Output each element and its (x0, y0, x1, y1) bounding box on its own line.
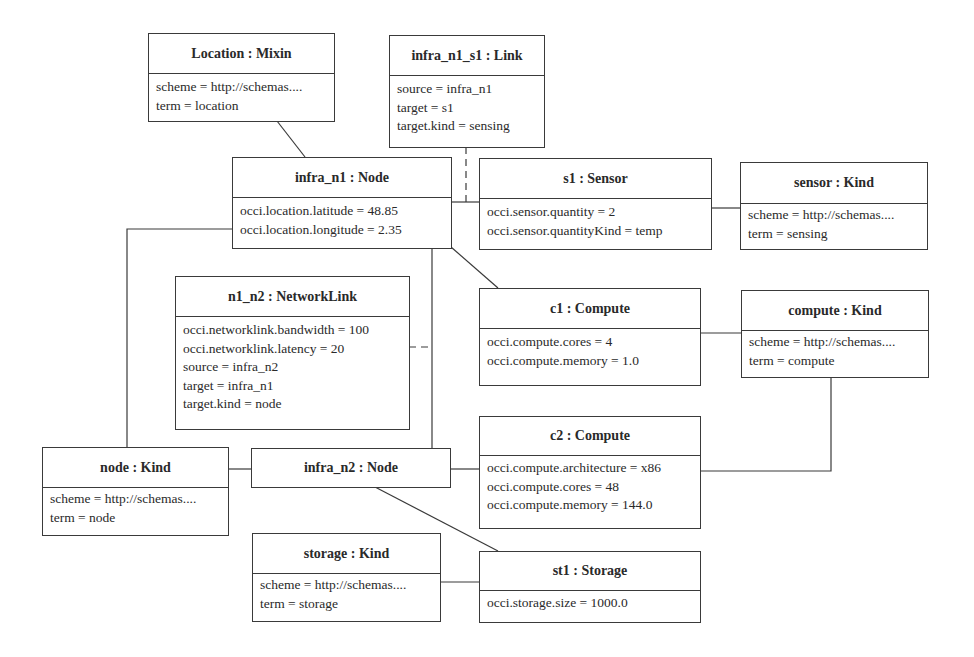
object-title: n1_n2 : NetworkLink (176, 277, 409, 317)
object-infra-n1-node[interactable]: infra_n1 : Node occi.location.latitude =… (232, 157, 452, 249)
object-title: infra_n1_s1 : Link (390, 36, 544, 76)
object-node-kind[interactable]: node : Kind scheme = http://schemas.... … (42, 447, 229, 536)
object-attributes: occi.location.latitude = 48.85 occi.loca… (233, 198, 451, 239)
object-title: infra_n1 : Node (233, 158, 451, 198)
attribute: source = infra_n1 (397, 80, 544, 99)
attribute: scheme = http://schemas.... (156, 78, 334, 97)
attribute: occi.networklink.latency = 20 (183, 340, 409, 359)
object-attributes: occi.compute.cores = 4 occi.compute.memo… (480, 329, 700, 370)
attribute: occi.networklink.bandwidth = 100 (183, 321, 409, 340)
attribute: target = infra_n1 (183, 377, 409, 396)
attribute: occi.sensor.quantityKind = temp (487, 222, 711, 241)
attribute: term = compute (749, 352, 928, 371)
object-attributes: scheme = http://schemas.... term = stora… (253, 574, 440, 613)
attribute: occi.compute.memory = 144.0 (487, 496, 700, 515)
attribute: term = storage (260, 595, 440, 614)
attribute: occi.compute.cores = 48 (487, 478, 700, 497)
attribute: occi.location.latitude = 48.85 (240, 202, 451, 221)
attribute: term = node (50, 509, 228, 528)
attribute: scheme = http://schemas.... (748, 206, 927, 225)
attribute: occi.compute.memory = 1.0 (487, 352, 700, 371)
object-title: infra_n2 : Node (252, 449, 450, 487)
link-location-infra-n1 (277, 121, 305, 157)
attribute: occi.compute.architecture = x86 (487, 459, 700, 478)
object-title: Location : Mixin (149, 34, 334, 74)
link-infra-n1-c1 (451, 247, 498, 288)
object-title: c1 : Compute (480, 289, 700, 329)
object-s1-sensor[interactable]: s1 : Sensor occi.sensor.quantity = 2 occ… (479, 158, 712, 250)
object-n1-n2-networklink[interactable]: n1_n2 : NetworkLink occi.networklink.ban… (175, 276, 410, 430)
object-title: st1 : Storage (480, 552, 700, 591)
attribute: target.kind = sensing (397, 117, 544, 136)
attribute: term = sensing (748, 225, 927, 244)
object-c1-compute[interactable]: c1 : Compute occi.compute.cores = 4 occi… (479, 288, 701, 386)
object-attributes: scheme = http://schemas.... term = sensi… (741, 204, 927, 243)
object-title: node : Kind (43, 448, 228, 488)
link-c2-compute-kind (700, 377, 831, 471)
object-st1-storage[interactable]: st1 : Storage occi.storage.size = 1000.0 (479, 551, 701, 623)
object-attributes: occi.compute.architecture = x86 occi.com… (480, 456, 700, 515)
object-compute-kind[interactable]: compute : Kind scheme = http://schemas..… (741, 290, 929, 378)
object-attributes: scheme = http://schemas.... term = compu… (742, 331, 928, 370)
object-title: compute : Kind (742, 291, 928, 331)
object-c2-compute[interactable]: c2 : Compute occi.compute.architecture =… (479, 416, 701, 529)
attribute: term = location (156, 97, 334, 116)
object-attributes: occi.storage.size = 1000.0 (480, 591, 700, 613)
object-infra-n2-node[interactable]: infra_n2 : Node (251, 448, 451, 488)
object-sensor-kind[interactable]: sensor : Kind scheme = http://schemas...… (740, 162, 928, 250)
object-attributes: source = infra_n1 target = s1 target.kin… (390, 76, 544, 136)
object-infra-n1-s1-link[interactable]: infra_n1_s1 : Link source = infra_n1 tar… (389, 35, 545, 148)
attribute: occi.sensor.quantity = 2 (487, 203, 711, 222)
attribute: occi.compute.cores = 4 (487, 333, 700, 352)
object-title: s1 : Sensor (480, 159, 711, 199)
object-attributes: scheme = http://schemas.... term = locat… (149, 74, 334, 115)
object-title: storage : Kind (253, 534, 440, 574)
object-attributes: scheme = http://schemas.... term = node (43, 488, 228, 527)
object-title: sensor : Kind (741, 163, 927, 204)
object-storage-kind[interactable]: storage : Kind scheme = http://schemas..… (252, 533, 441, 622)
attribute: scheme = http://schemas.... (50, 490, 228, 509)
attribute: occi.location.longitude = 2.35 (240, 221, 451, 240)
object-location-mixin[interactable]: Location : Mixin scheme = http://schemas… (148, 33, 335, 122)
attribute: scheme = http://schemas.... (749, 333, 928, 352)
attribute: target.kind = node (183, 395, 409, 414)
attribute: scheme = http://schemas.... (260, 576, 440, 595)
object-attributes: occi.sensor.quantity = 2 occi.sensor.qua… (480, 199, 711, 240)
object-attributes: occi.networklink.bandwidth = 100 occi.ne… (176, 317, 409, 414)
attribute: source = infra_n2 (183, 358, 409, 377)
attribute: occi.storage.size = 1000.0 (487, 594, 700, 613)
attribute: target = s1 (397, 99, 544, 118)
object-title: c2 : Compute (480, 417, 700, 456)
